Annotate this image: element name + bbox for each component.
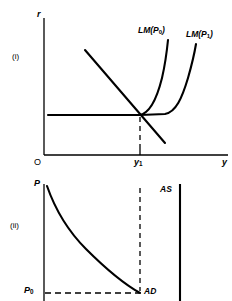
curve-label-lm-p1: LM(P1)	[186, 30, 213, 40]
lm1-close: )	[210, 29, 213, 39]
lm0-base: LM(P	[138, 25, 159, 35]
panel-label-ii: (ii)	[10, 222, 19, 230]
lm0-close: )	[162, 25, 165, 35]
panel-label-i: (i)	[12, 53, 19, 61]
top-x-tick-label-y1: y1	[134, 158, 143, 168]
diagram-canvas	[0, 0, 232, 301]
top-y-axis-label: r	[37, 10, 41, 19]
p0-subscript: 0	[30, 288, 34, 295]
curve-lm-p1	[140, 44, 196, 115]
curve-label-as: AS	[160, 185, 172, 194]
curve-label-ad: AD	[144, 287, 156, 296]
top-origin-label: O	[34, 158, 41, 167]
curve-ad	[47, 186, 140, 293]
top-x-axis-label: y	[222, 158, 227, 167]
curve-label-lm-p0: LM(P0)	[138, 26, 165, 36]
tick-subscript: 1	[139, 160, 143, 167]
bottom-y-tick-label-p0: P0	[24, 286, 34, 296]
curve-is	[85, 50, 165, 143]
lm1-base: LM(P	[186, 29, 207, 39]
bottom-y-axis-label: P	[34, 179, 40, 188]
economics-figure: (i) r y O y1 LM(P0) LM(P1) (ii) P P0 AD …	[0, 0, 232, 301]
